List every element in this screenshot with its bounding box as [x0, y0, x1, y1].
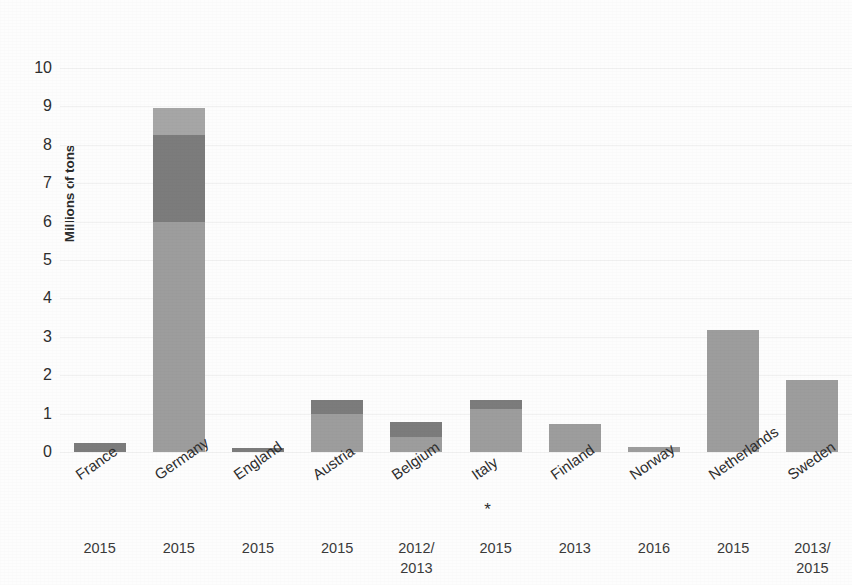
y-tick-label: 10 [18, 60, 52, 76]
year-label-italy: 2015 [462, 539, 530, 559]
bar-netherlands [707, 330, 759, 452]
y-tick-label: 0 [18, 444, 52, 460]
y-tick-label: 9 [18, 98, 52, 114]
gridline [60, 68, 852, 69]
bar-austria [311, 400, 363, 452]
category-label-italy: Italy [468, 453, 500, 483]
year-label-netherlands: 2015 [699, 539, 767, 559]
year-label-sweden: 2013/ 2015 [778, 539, 846, 578]
bar-segment-middle-segment [390, 422, 442, 437]
year-label-finland: 2013 [541, 539, 609, 559]
bar-segment-lower-segment [153, 222, 205, 452]
year-label-england: 2015 [224, 539, 292, 559]
bar-segment-middle-segment [153, 135, 205, 221]
y-tick-label: 2 [18, 367, 52, 383]
y-tick-label: 7 [18, 175, 52, 191]
y-tick-label: 8 [18, 137, 52, 153]
bar-germany [153, 108, 205, 452]
y-tick-label: 1 [18, 406, 52, 422]
bar-segment-upper-segment [153, 108, 205, 136]
y-tick-label: 4 [18, 290, 52, 306]
bar-segment-lower-segment [707, 330, 759, 452]
bar-segment-middle-segment [470, 400, 522, 409]
bar-segment-lower-segment [311, 414, 363, 452]
y-tick-label: 6 [18, 214, 52, 230]
category-note-italy: * [478, 500, 498, 520]
bar-segment-lower-segment [470, 409, 522, 452]
chart-figure: Millions of tons 109876543210 FranceGerm… [0, 0, 852, 585]
y-tick-label: 5 [18, 252, 52, 268]
bar-segment-middle-segment [311, 400, 363, 413]
year-label-france: 2015 [66, 539, 134, 559]
year-label-norway: 2016 [620, 539, 688, 559]
plot-area [60, 68, 852, 452]
year-label-austria: 2015 [303, 539, 371, 559]
bar-italy [470, 400, 522, 452]
y-tick-label: 3 [18, 329, 52, 345]
year-label-germany: 2015 [145, 539, 213, 559]
y-axis-tick-labels: 109876543210 [0, 0, 52, 585]
year-label-belgium: 2012/ 2013 [382, 539, 450, 578]
